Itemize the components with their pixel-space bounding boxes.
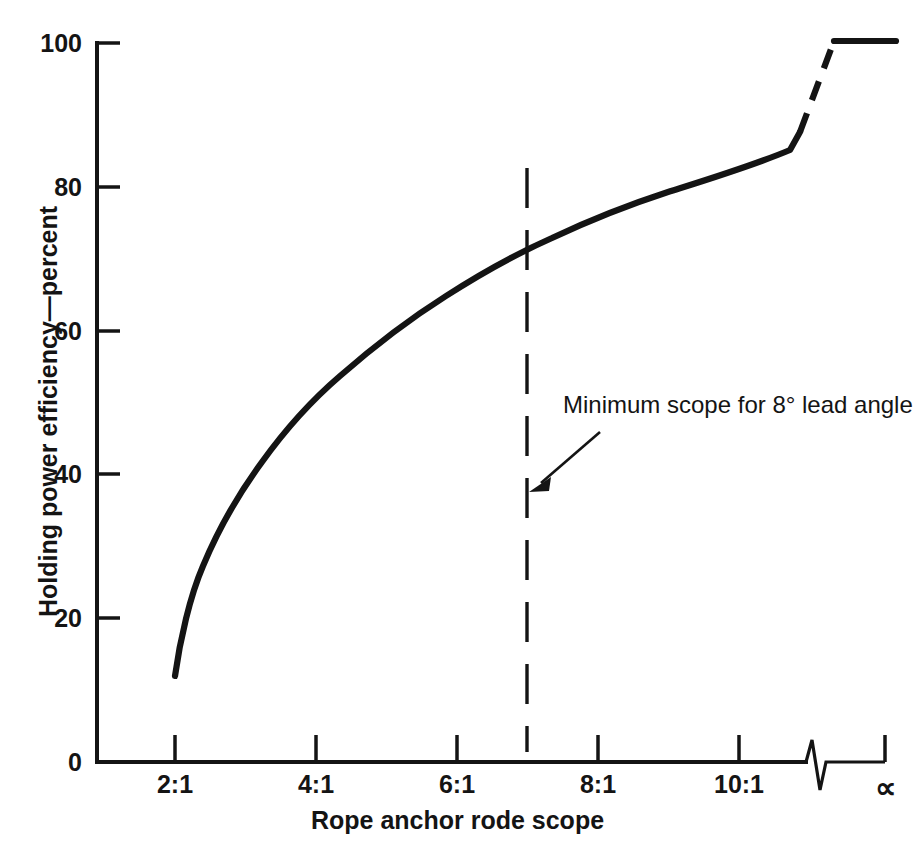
x-tick-label-10to1: 10:1 (714, 772, 764, 797)
series-extrapolation-dashed (800, 41, 834, 132)
annotation-leader-line (541, 432, 600, 483)
y-tick-label-0: 0 (8, 750, 82, 775)
x-axis-break-zigzag (806, 740, 885, 790)
y-axis-title: Holding power efficiency—percent (34, 132, 63, 692)
minimum-scope-annotation-label: Minimum scope for 8° lead angle (563, 391, 913, 419)
chart-plot-area (0, 0, 915, 851)
y-tick-label-100: 100 (8, 31, 82, 56)
x-tick-label-8to1: 8:1 (580, 772, 616, 797)
annotation-arrow-head (529, 477, 551, 492)
x-tick-label-4to1: 4:1 (298, 772, 334, 797)
x-axis-title: Rope anchor rode scope (0, 806, 915, 835)
x-tick-label-6to1: 6:1 (439, 772, 475, 797)
x-tick-label-2to1: 2:1 (157, 772, 193, 797)
x-tick-label-infinity: ∝ (875, 770, 896, 805)
chart-figure: 100 80 60 40 20 0 2:1 4:1 6:1 8:1 10:1 ∝… (0, 0, 915, 851)
